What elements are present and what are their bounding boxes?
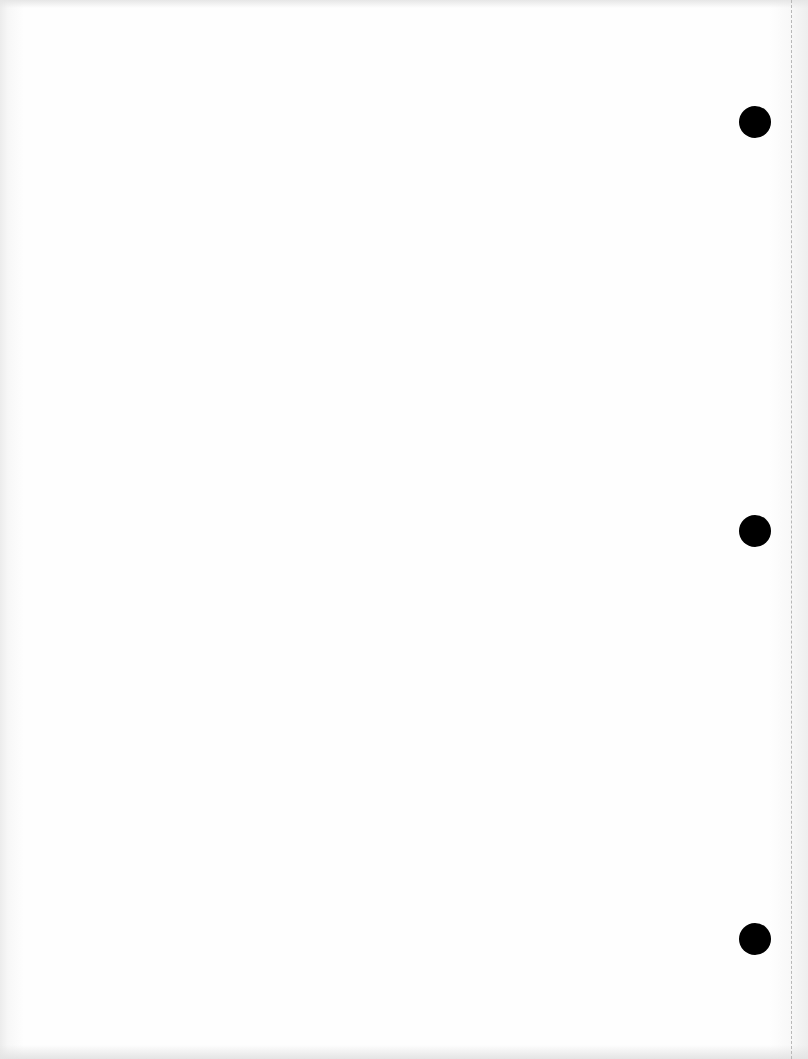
perforation-line bbox=[791, 0, 792, 1059]
punch-hole-bottom bbox=[739, 923, 771, 955]
punch-hole-middle bbox=[739, 515, 771, 547]
blank-page bbox=[0, 0, 808, 1059]
punch-hole-top bbox=[739, 106, 771, 138]
bottom-edge-shadow bbox=[0, 1045, 808, 1059]
top-edge-shadow bbox=[0, 0, 808, 8]
